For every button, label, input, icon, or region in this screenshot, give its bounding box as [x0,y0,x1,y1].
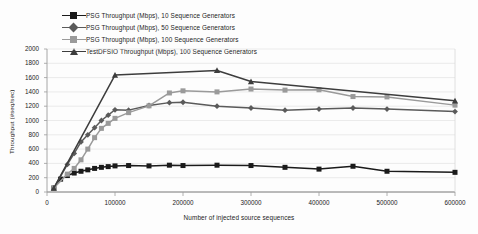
data-point-marker [65,172,70,177]
data-point-marker [72,166,77,171]
data-point-marker [92,166,97,171]
y-axis-tick-label: 200 [13,174,39,181]
y-axis-tick-label: 1600 [13,74,39,81]
data-point-marker [92,135,97,140]
data-point-marker [147,103,152,108]
data-point-marker [452,109,458,115]
data-point-marker [85,147,90,152]
y-axis-tick-label: 1200 [13,102,39,109]
data-point-marker [126,110,131,115]
x-axis-tick-label: 500000 [364,199,410,206]
data-point-marker [316,106,322,112]
chart-container: PSG Throughput (Mbps), 10 Sequence Gener… [0,0,478,234]
y-axis-tick-label: 1800 [13,59,39,66]
y-axis-tick-label: 1000 [13,117,39,124]
data-point-marker [106,164,111,169]
x-axis-tick-label: 100000 [92,199,138,206]
x-axis-tick-label: 200000 [160,199,206,206]
data-point-marker [147,163,152,168]
data-point-marker [180,99,186,105]
y-axis-tick-label: 600 [13,145,39,152]
data-point-marker [351,94,356,99]
data-point-marker [79,157,84,162]
data-point-marker [283,88,288,93]
y-axis-tick-label: 2000 [13,45,39,52]
y-axis-tick-label: 800 [13,131,39,138]
series-line [54,165,455,188]
x-axis-tick-label: 0 [24,199,70,206]
data-point-marker [99,126,104,131]
x-axis-title: Number of injected source sequences [0,214,478,221]
data-point-marker [106,121,111,126]
data-point-marker [72,171,77,176]
plot-area: Throughput (#seq/sec) Number of injected… [0,0,478,234]
series-line [54,89,455,188]
data-point-marker [126,163,131,168]
data-point-marker [453,170,458,175]
data-point-marker [384,106,390,112]
data-point-marker [181,88,186,93]
y-axis-tick-label: 1400 [13,88,39,95]
series-line [54,70,455,188]
x-axis-tick-label: 600000 [432,199,478,206]
data-point-marker [113,163,118,168]
series-line [54,102,455,188]
x-axis-tick-label: 300000 [228,199,274,206]
y-axis-tick-label: 400 [13,159,39,166]
data-point-marker [113,116,118,121]
x-axis-tick-label: 400000 [296,199,342,206]
data-point-marker [283,165,288,170]
data-point-marker [317,167,322,172]
data-point-marker [79,169,84,174]
data-point-marker [214,103,220,109]
data-point-marker [351,164,356,169]
y-axis-tick-label: 0 [13,188,39,195]
data-point-marker [85,167,90,172]
data-point-marker [167,100,173,106]
data-point-marker [249,87,254,92]
data-point-marker [167,90,172,95]
data-point-marker [167,163,172,168]
data-point-marker [385,169,390,174]
data-point-marker [282,107,288,113]
data-point-marker [181,163,186,168]
data-point-marker [99,165,104,170]
data-point-marker [215,89,220,94]
data-point-marker [215,163,220,168]
data-point-marker [249,163,254,168]
